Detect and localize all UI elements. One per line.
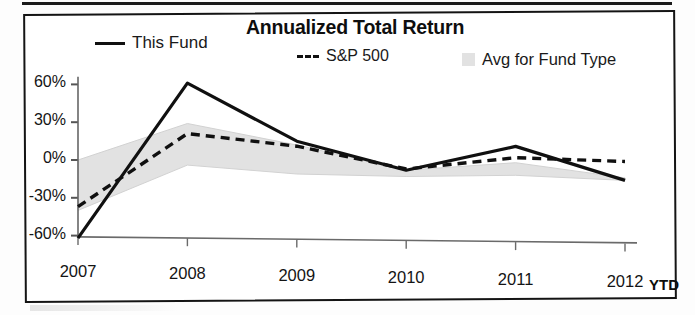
- x-axis-tick-label: 2008: [156, 264, 218, 283]
- y-axis-tick-label: -60%: [4, 225, 66, 243]
- x-axis-tick-label: 2010: [375, 268, 437, 287]
- x-axis-tick-label: 2012: [594, 272, 656, 291]
- y-axis-tick-label: 30%: [4, 111, 66, 129]
- chart-screenshot: Annualized Total Return This Fund S&P 50…: [0, 0, 695, 315]
- x-axis-tick-label: 2009: [266, 266, 328, 285]
- y-axis-tick-label: -30%: [4, 187, 66, 205]
- plot-area: 60%30%0%-30%-60% 20072008200920102011201…: [0, 0, 695, 315]
- x-axis-tick-label: 2011: [485, 270, 547, 289]
- ytd-label: YTD: [649, 276, 679, 293]
- avg-fund-type-band: [78, 124, 625, 211]
- y-axis-tick-label: 60%: [4, 73, 66, 91]
- x-axis-tick-label: 2007: [47, 262, 109, 281]
- y-axis-tick-label: 0%: [4, 149, 66, 167]
